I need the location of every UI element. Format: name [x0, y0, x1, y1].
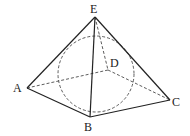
- label-D: D: [110, 56, 119, 70]
- edge-EA: [27, 17, 95, 88]
- edge-DC: [108, 70, 170, 100]
- label-C: C: [172, 95, 180, 109]
- label-A: A: [13, 81, 22, 95]
- edge-AB: [27, 88, 90, 117]
- label-E: E: [90, 2, 97, 16]
- edge-EC: [95, 17, 170, 100]
- edge-EB: [90, 17, 95, 117]
- pyramid-diagram: E A B C D: [0, 0, 190, 136]
- edge-BC: [90, 100, 170, 117]
- edge-AD: [27, 70, 108, 88]
- label-B: B: [84, 120, 92, 134]
